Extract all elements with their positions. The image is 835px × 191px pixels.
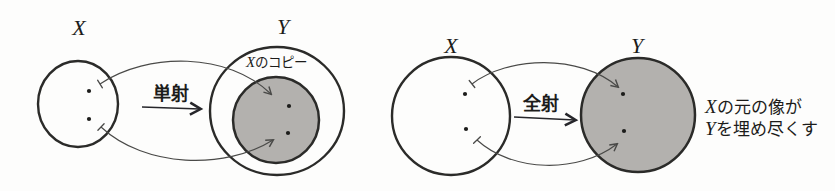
surjection-label: 全射 [522, 93, 559, 114]
x-copy-circle [233, 77, 319, 163]
injection-label: 単射 [153, 83, 189, 104]
x-copy-label: Xのコピー [245, 54, 307, 70]
element-dot [286, 131, 290, 135]
set-x-circle [392, 57, 510, 175]
surjection-arrow [514, 117, 575, 120]
injection-arrow [142, 107, 200, 109]
surjection-note-line1: Xの元の像が [704, 96, 802, 117]
set-y-label: Y [277, 14, 292, 39]
set-y-label: Y [631, 33, 646, 58]
injective-surjective-figure: X Y Xのコピー 単射 X [0, 0, 835, 191]
set-x-label: X [71, 15, 87, 40]
injection-diagram: X Y Xのコピー 単射 [38, 14, 344, 175]
element-dot [87, 89, 91, 93]
element-dot [464, 127, 468, 131]
injective-surjective-diagram: X Y Xのコピー 単射 X [0, 0, 835, 191]
element-dot [622, 129, 626, 133]
element-dot [87, 117, 91, 121]
element-dot [463, 92, 467, 96]
element-dot [287, 104, 291, 108]
set-x-circle [38, 61, 118, 147]
surjection-diagram: X Y 全射 Xの元の像が Yを埋め尽くす [392, 33, 818, 175]
set-x-label: X [443, 33, 459, 58]
element-dot [621, 92, 625, 96]
surjection-note-line2: Yを埋め尽くす [705, 118, 818, 139]
